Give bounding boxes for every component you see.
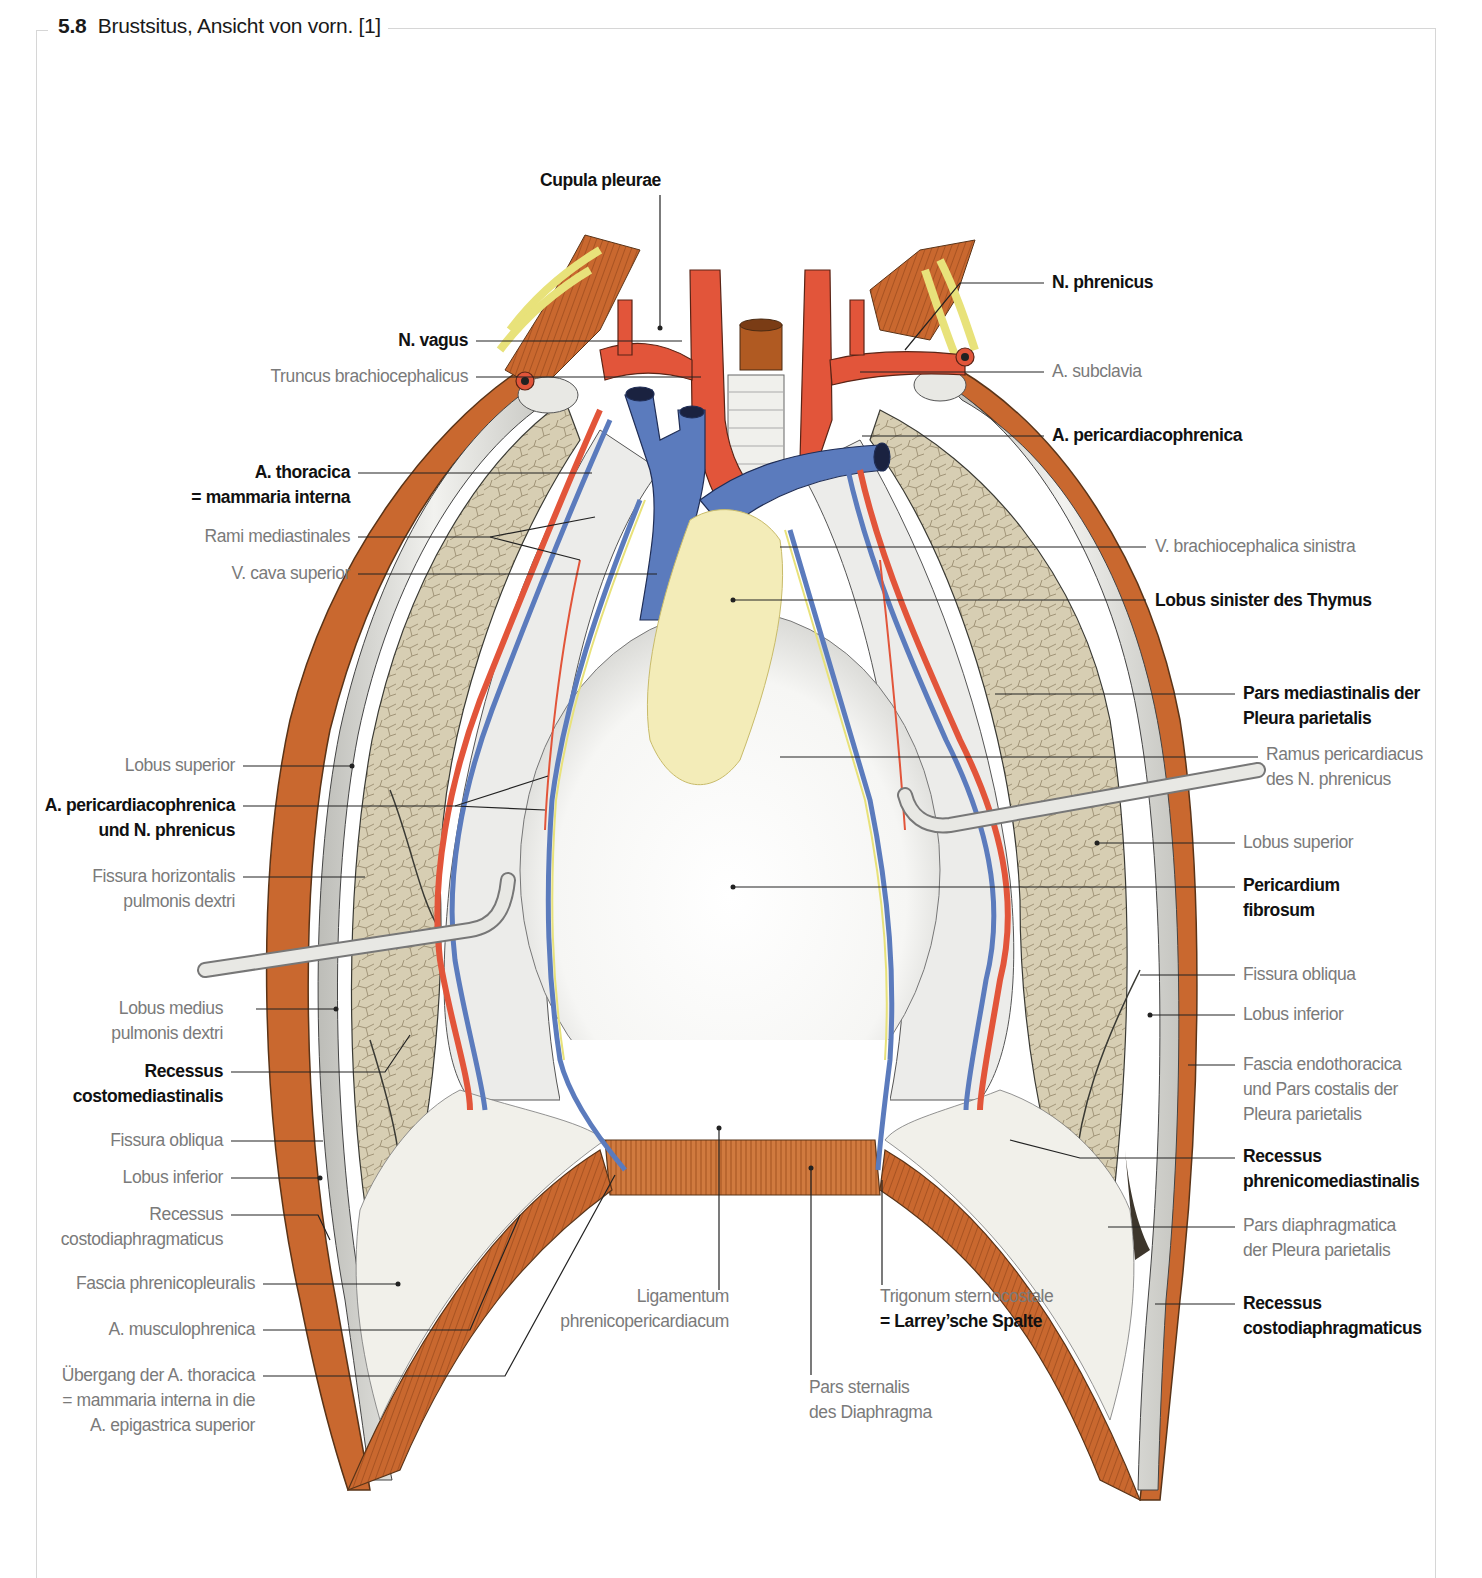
label-a-pericardiacophrenica: A. pericardiacophrenica: [1052, 423, 1242, 448]
label-line: Fissura obliqua: [110, 1128, 223, 1153]
label-lobus-medius: Lobus medius pulmonis dextri: [111, 996, 223, 1046]
label-lobus-inferior-right-lung: Lobus inferior: [123, 1165, 223, 1190]
label-n-vagus: N. vagus: [398, 328, 468, 353]
label-line: Fascia endothoracica: [1243, 1052, 1401, 1077]
label-fascia-endothoracica: Fascia endothoracica und Pars costalis d…: [1243, 1052, 1401, 1127]
label-line: der Pleura parietalis: [1243, 1238, 1396, 1263]
label-line: N. phrenicus: [1052, 270, 1153, 295]
label-line: V. brachiocephalica sinistra: [1155, 534, 1355, 559]
label-pars-mediastinalis: Pars mediastinalis der Pleura parietalis: [1243, 681, 1420, 731]
label-truncus-brachiocephalicus: Truncus brachiocephalicus: [270, 364, 468, 389]
label-line: V. cava superior: [232, 561, 350, 586]
label-line: = mammaria interna in die: [62, 1388, 255, 1413]
label-line: Pleura parietalis: [1243, 706, 1420, 731]
label-lobus-inferior-left-lung: Lobus inferior: [1243, 1002, 1343, 1027]
label-a-subclavia: A. subclavia: [1052, 359, 1142, 384]
label-fissura-obliqua-left-lung: Fissura obliqua: [1243, 962, 1356, 987]
label-lobus-superior-left-lung: Lobus superior: [1243, 830, 1353, 855]
label-line: Recessus: [61, 1202, 223, 1227]
label-line: des Diaphragma: [809, 1400, 932, 1425]
label-line: A. epigastrica superior: [62, 1413, 255, 1438]
label-line: Lobus inferior: [1243, 1002, 1343, 1027]
pericardium-base: [560, 1040, 890, 1140]
label-line: Fissura obliqua: [1243, 962, 1356, 987]
label-line: Lobus superior: [1243, 830, 1353, 855]
label-line: A. thoracica: [191, 460, 350, 485]
label-v-brachiocephalica-sinistra: V. brachiocephalica sinistra: [1155, 534, 1355, 559]
label-ramus-pericardiacus: Ramus pericardiacus des N. phrenicus: [1266, 742, 1423, 792]
label-line: Übergang der A. thoracica: [62, 1363, 255, 1388]
label-line: Lobus medius: [111, 996, 223, 1021]
label-line: costodiaphragmaticus: [61, 1227, 223, 1252]
label-line: Pars sternalis: [809, 1375, 932, 1400]
label-line: Ramus pericardiacus: [1266, 742, 1423, 767]
label-line: Pars diaphragmatica: [1243, 1213, 1396, 1238]
label-n-phrenicus: N. phrenicus: [1052, 270, 1153, 295]
label-line: A. pericardiacophrenica: [1052, 423, 1242, 448]
label-pericardium-fibrosum: Pericardium fibrosum: [1243, 873, 1340, 923]
label-cupula-pleurae: Cupula pleurae: [540, 168, 661, 193]
label-recessus-costomediastinalis: Recessus costomediastinalis: [73, 1059, 223, 1109]
label-line: A. subclavia: [1052, 359, 1142, 384]
label-recessus-phrenicomediastinalis: Recessus phrenicomediastinalis: [1243, 1144, 1419, 1194]
label-line: costodiaphragmaticus: [1243, 1316, 1422, 1341]
label-line: Recessus: [1243, 1291, 1422, 1316]
label-line: A. musculophrenica: [109, 1317, 256, 1342]
label-line: pulmonis dextri: [92, 889, 235, 914]
label-line: phrenicopericardiacum: [560, 1309, 729, 1334]
label-line: = mammaria interna: [191, 485, 350, 510]
label-lobus-superior-right-lung: Lobus superior: [125, 753, 235, 778]
label-line: Cupula pleurae: [540, 168, 661, 193]
label-line: und Pars costalis der: [1243, 1077, 1401, 1102]
label-line-larrey: = Larrey’sche Spalte: [880, 1309, 1053, 1334]
label-line: Lobus superior: [125, 753, 235, 778]
label-a-thoracica: A. thoracica = mammaria interna: [191, 460, 350, 510]
label-rami-mediastinales: Rami mediastinales: [205, 524, 351, 549]
label-line: Pars mediastinalis der: [1243, 681, 1420, 706]
label-line: Pericardium: [1243, 873, 1340, 898]
label-line: Lobus sinister des Thymus: [1155, 588, 1372, 613]
label-line: des N. phrenicus: [1266, 767, 1423, 792]
label-pars-diaphragmatica: Pars diaphragmatica der Pleura parietali…: [1243, 1213, 1396, 1263]
label-v-cava-superior: V. cava superior: [232, 561, 350, 586]
label-line: Ligamentum: [560, 1284, 729, 1309]
label-line: Lobus inferior: [123, 1165, 223, 1190]
label-line: phrenicomediastinalis: [1243, 1169, 1419, 1194]
label-uebergang-a-thoracica: Übergang der A. thoracica = mammaria int…: [62, 1363, 255, 1438]
label-a-musculophrenica: A. musculophrenica: [109, 1317, 256, 1342]
label-line: Truncus brachiocephalicus: [270, 364, 468, 389]
label-a-pericardiacophrenica-n-phrenicus: A. pericardiacophrenica und N. phrenicus: [45, 793, 235, 843]
label-line: Rami mediastinales: [205, 524, 351, 549]
label-pars-sternalis: Pars sternalis des Diaphragma: [809, 1375, 932, 1425]
label-line: und N. phrenicus: [45, 818, 235, 843]
label-line: Fissura horizontalis: [92, 864, 235, 889]
label-line: Trigonum sternocostale: [880, 1284, 1053, 1309]
label-recessus-costodiaphragmaticus-right: Recessus costodiaphragmaticus: [61, 1202, 223, 1252]
label-line: A. pericardiacophrenica: [45, 793, 235, 818]
label-line: Recessus: [1243, 1144, 1419, 1169]
label-line: Recessus: [73, 1059, 223, 1084]
label-line: fibrosum: [1243, 898, 1340, 923]
label-line: Fascia phrenicopleuralis: [76, 1271, 255, 1296]
label-recessus-costodiaphragmaticus-left: Recessus costodiaphragmaticus: [1243, 1291, 1422, 1341]
label-ligamentum-phrenicopericardiacum: Ligamentum phrenicopericardiacum: [560, 1284, 729, 1334]
label-line: pulmonis dextri: [111, 1021, 223, 1046]
label-line: costomediastinalis: [73, 1084, 223, 1109]
label-trigonum-sternocostale: Trigonum sternocostale = Larrey’sche Spa…: [880, 1284, 1053, 1334]
label-line: N. vagus: [398, 328, 468, 353]
label-fascia-phrenicopleuralis: Fascia phrenicopleuralis: [76, 1271, 255, 1296]
label-line: Pleura parietalis: [1243, 1102, 1401, 1127]
label-lobus-sinister-thymus: Lobus sinister des Thymus: [1155, 588, 1372, 613]
label-fissura-horizontalis: Fissura horizontalis pulmonis dextri: [92, 864, 235, 914]
label-fissura-obliqua-right-lung: Fissura obliqua: [110, 1128, 223, 1153]
